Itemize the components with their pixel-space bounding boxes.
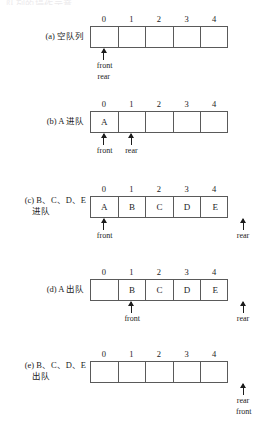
panel-c-cell-2: C: [146, 197, 174, 217]
panel-e-caption-line1: (e) B、C、D、E: [25, 360, 86, 370]
panel-d-cell-3: D: [174, 280, 202, 300]
panel-b-rear-pointer: rear: [124, 134, 138, 156]
panel-e-index-4: 4: [200, 349, 228, 359]
panel-b-cell-4: [201, 112, 229, 132]
panel-c-front-pointer: front: [97, 219, 111, 241]
panel-b-index-1: 1: [118, 99, 146, 109]
panel-b-rear-label: rear: [124, 146, 138, 156]
panel-e-rear-label: rear: [236, 396, 250, 406]
panel-d-front-label: front: [124, 314, 138, 324]
panel-a-index-2: 2: [145, 14, 173, 24]
panel-b-index-4: 4: [200, 99, 228, 109]
panel-a-cell-1: [119, 27, 147, 47]
panel-a-rear-label: rear: [97, 72, 111, 82]
panel-a-cell-0: [91, 27, 119, 47]
panel-b-index-3: 3: [173, 99, 201, 109]
panel-e-cell-3: [174, 362, 202, 382]
panel-e-cell-4: [201, 362, 229, 382]
panel-e-array: [90, 361, 228, 383]
panel-b-front-pointer: front: [97, 134, 111, 156]
panel-d-a-dequeue: (d) A 出队 0 1 2 3 4 B C D E front rear: [0, 253, 273, 335]
panel-c-array: A B C D E: [90, 196, 228, 218]
panel-d-cell-0: [91, 280, 119, 300]
panel-b-array: A: [90, 111, 228, 133]
panel-c-cell-4: E: [201, 197, 229, 217]
panel-b-cell-0: A: [91, 112, 119, 132]
panel-c-index-2: 2: [145, 184, 173, 194]
panel-c-cell-3: D: [174, 197, 202, 217]
panel-e-index-row: 0 1 2 3 4: [90, 349, 228, 359]
panel-c-cell-0: A: [91, 197, 119, 217]
panel-a-caption-line1: (a) 空队列: [45, 31, 84, 41]
panel-a-index-4: 4: [200, 14, 228, 24]
panel-b-caption: (b) A 进队: [0, 116, 84, 127]
panel-d-caption: (d) A 出队: [0, 284, 84, 295]
panel-d-cell-4: E: [201, 280, 229, 300]
panel-e-index-0: 0: [90, 349, 118, 359]
panel-c-caption-line2: 进队: [0, 206, 86, 217]
panel-e-index-2: 2: [145, 349, 173, 359]
panel-d-index-0: 0: [90, 267, 118, 277]
panel-e-cell-2: [146, 362, 174, 382]
queue-diagram-figure: 队列的操作示意 (a) 空队列 0 1 2 3 4 front rear (b: [0, 0, 273, 423]
panel-c-cell-1: B: [119, 197, 147, 217]
panel-c-index-4: 4: [200, 184, 228, 194]
panel-a-array: [90, 26, 228, 48]
panel-b-cell-3: [174, 112, 202, 132]
panel-d-array: B C D E: [90, 279, 228, 301]
panel-e-cell-1: [119, 362, 147, 382]
panel-e-index-1: 1: [118, 349, 146, 359]
panel-e-front-label: front: [236, 407, 250, 417]
panel-b-caption-line1: (b) A 进队: [47, 116, 84, 126]
panel-d-index-2: 2: [145, 267, 173, 277]
panel-b-cell-2: [146, 112, 174, 132]
panel-e-caption-line2: 出队: [0, 371, 86, 382]
panel-c-index-3: 3: [173, 184, 201, 194]
panel-a-index-row: 0 1 2 3 4: [90, 14, 228, 24]
panel-a-index-0: 0: [90, 14, 118, 24]
panel-d-index-row: 0 1 2 3 4: [90, 267, 228, 277]
panel-e-caption: (e) B、C、D、E 出队: [0, 360, 86, 381]
panel-c-caption: (c) B、C、D、E 进队: [0, 195, 86, 216]
panel-b-a-enqueue: (b) A 进队 0 1 2 3 4 A front rear: [0, 85, 273, 170]
panel-c-rear-label: rear: [236, 231, 250, 241]
panel-a-cell-4: [201, 27, 229, 47]
panel-e-index-3: 3: [173, 349, 201, 359]
panel-d-cell-1: B: [119, 280, 147, 300]
panel-d-index-3: 3: [173, 267, 201, 277]
panel-d-caption-line1: (d) A 出队: [47, 284, 84, 294]
panel-d-front-pointer: front: [124, 302, 138, 324]
panel-c-bcde-enqueue: (c) B、C、D、E 进队 0 1 2 3 4 A B C D E front…: [0, 170, 273, 255]
panel-d-rear-pointer: rear: [236, 302, 250, 324]
panel-a-caption: (a) 空队列: [0, 31, 84, 42]
panel-c-index-0: 0: [90, 184, 118, 194]
panel-d-index-1: 1: [118, 267, 146, 277]
panel-a-empty-queue: (a) 空队列 0 1 2 3 4 front rear: [0, 0, 273, 85]
panel-a-cell-2: [146, 27, 174, 47]
panel-c-index-1: 1: [118, 184, 146, 194]
panel-e-rear-front-pointer: rear front: [236, 384, 250, 416]
panel-b-index-2: 2: [145, 99, 173, 109]
panel-d-rear-label: rear: [236, 314, 250, 324]
panel-b-index-0: 0: [90, 99, 118, 109]
panel-b-cell-1: [119, 112, 147, 132]
panel-c-rear-pointer: rear: [236, 219, 250, 241]
panel-a-front-rear-pointer: front rear: [97, 49, 111, 81]
panel-b-front-label: front: [97, 146, 111, 156]
panel-b-index-row: 0 1 2 3 4: [90, 99, 228, 109]
panel-d-index-4: 4: [200, 267, 228, 277]
panel-a-cell-3: [174, 27, 202, 47]
panel-c-caption-line1: (c) B、C、D、E: [25, 195, 86, 205]
panel-a-front-label: front: [97, 61, 111, 71]
panel-e-cell-0: [91, 362, 119, 382]
panel-a-index-3: 3: [173, 14, 201, 24]
panel-c-index-row: 0 1 2 3 4: [90, 184, 228, 194]
panel-e-bcde-dequeue: (e) B、C、D、E 出队 0 1 2 3 4 rear front: [0, 335, 273, 423]
panel-a-index-1: 1: [118, 14, 146, 24]
panel-c-front-label: front: [97, 231, 111, 241]
panel-d-cell-2: C: [146, 280, 174, 300]
